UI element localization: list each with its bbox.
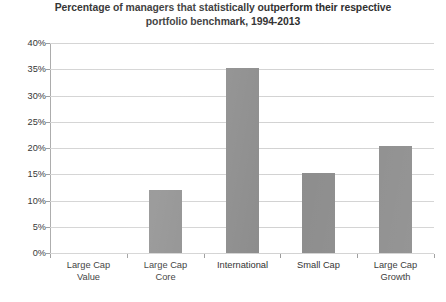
x-axis-category-label-line: Value	[50, 272, 127, 284]
y-axis-tick-mark	[46, 122, 50, 123]
x-axis-category-labels: Large CapValueLarge CapCoreInternational…	[50, 254, 434, 300]
x-axis-category-label-line: Large Cap	[357, 260, 434, 272]
bar	[379, 146, 412, 253]
gridline	[50, 43, 434, 44]
y-axis-tick-mark	[46, 148, 50, 149]
x-axis-tick-mark	[127, 254, 128, 258]
x-axis-category-label: Large CapCore	[127, 260, 204, 283]
x-axis-tick-mark	[434, 254, 435, 258]
x-axis-category-label: Small Cap	[280, 260, 357, 272]
y-axis-tick-labels: 0%5%10%15%20%25%30%35%40%	[6, 43, 46, 254]
x-axis-category-label-line: Large Cap	[50, 260, 127, 272]
y-axis-tick-mark	[46, 174, 50, 175]
x-axis-tick-mark	[280, 254, 281, 258]
chart-title: Percentage of managers that statisticall…	[14, 1, 432, 28]
y-axis-tick-label: 5%	[12, 222, 46, 232]
y-axis-tick-label: 40%	[12, 38, 46, 48]
y-axis-tick-label: 20%	[12, 143, 46, 153]
x-axis-category-label-line: Growth	[357, 272, 434, 284]
x-axis-category-label: Large CapValue	[50, 260, 127, 283]
y-axis-tick-mark	[46, 43, 50, 44]
chart-title-line-2: portfolio benchmark, 1994-2013	[14, 15, 432, 29]
y-axis-tick-label: 0%	[12, 248, 46, 258]
x-axis-category-label-line: International	[204, 260, 281, 272]
y-axis-tick-mark	[46, 227, 50, 228]
y-axis-tick-label: 35%	[12, 64, 46, 74]
plot-area	[50, 43, 434, 253]
y-axis-tick-label: 15%	[12, 169, 46, 179]
bar	[226, 68, 259, 253]
y-axis-tick-label: 10%	[12, 196, 46, 206]
chart-title-line-1: Percentage of managers that statisticall…	[14, 1, 432, 15]
y-axis-tick-mark	[46, 201, 50, 202]
x-axis-category-label-line: Core	[127, 272, 204, 284]
x-axis-category-label: Large CapGrowth	[357, 260, 434, 283]
y-axis-tick-mark	[46, 69, 50, 70]
x-axis-category-label-line: Large Cap	[127, 260, 204, 272]
x-axis-category-label-line: Small Cap	[280, 260, 357, 272]
x-axis-tick-mark	[204, 254, 205, 258]
y-axis-tick-label: 25%	[12, 117, 46, 127]
y-axis-tick-mark	[46, 96, 50, 97]
bar	[149, 190, 182, 253]
x-axis-tick-mark	[357, 254, 358, 258]
bar-chart: Percentage of managers that statisticall…	[0, 0, 446, 302]
y-axis-tick-label: 30%	[12, 91, 46, 101]
x-axis-tick-mark	[50, 254, 51, 258]
x-axis-category-label: International	[204, 260, 281, 272]
bar	[302, 173, 335, 253]
